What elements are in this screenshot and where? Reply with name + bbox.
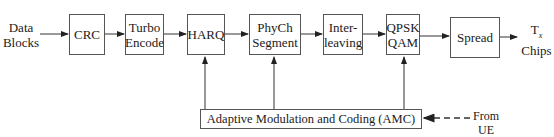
- block-spread: Spread: [450, 17, 500, 58]
- block-phych-label-1: PhyCh: [252, 20, 298, 35]
- block-harq: HARQ: [187, 14, 225, 55]
- block-interleave-label-2: leaving: [324, 35, 362, 50]
- block-amc: Adaptive Modulation and Coding (AMC): [200, 109, 422, 129]
- input-label-line2: Blocks: [0, 35, 42, 50]
- block-turbo-label-1: Turbo: [125, 20, 164, 35]
- block-qpsk-qam: QPSKQAM: [386, 14, 420, 55]
- output-label-line2: Chips: [519, 43, 554, 58]
- output-label-subscript: x: [539, 31, 543, 40]
- block-phych-segment: PhyChSegment: [249, 14, 301, 55]
- block-spread-label: Spread: [457, 30, 493, 45]
- block-mod-label-1: QPSK: [386, 20, 419, 35]
- block-phych-label-2: Segment: [252, 35, 298, 50]
- block-crc-label: CRC: [74, 27, 100, 42]
- feedback-label-line2: UE: [470, 123, 502, 137]
- input-label: Data Blocks: [0, 20, 42, 50]
- block-crc: CRC: [69, 14, 105, 55]
- block-interleave-label-1: Inter-: [324, 20, 362, 35]
- input-label-line1: Data: [0, 20, 42, 35]
- feedback-label: From UE: [470, 109, 502, 137]
- output-label-main: T: [531, 22, 539, 37]
- block-mod-label-2: QAM: [386, 35, 419, 50]
- block-interleaving: Inter-leaving: [323, 14, 363, 55]
- feedback-label-line1: From: [470, 109, 502, 123]
- block-turbo-label-2: Encode: [125, 35, 164, 50]
- block-amc-label: Adaptive Modulation and Coding (AMC): [207, 112, 415, 127]
- block-turbo-encode: TurboEncode: [125, 14, 164, 55]
- block-harq-label: HARQ: [188, 27, 225, 42]
- output-label: Tx Chips: [519, 22, 554, 58]
